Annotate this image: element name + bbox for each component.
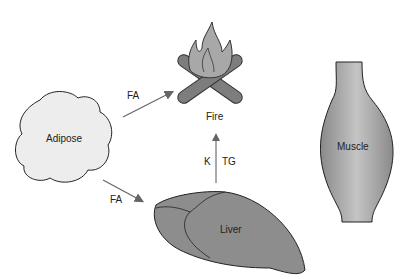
edge-label-tg: TG — [222, 156, 236, 167]
edge-label-fa-liver: FA — [110, 194, 122, 205]
arrow-adipose-to-liver — [103, 180, 142, 201]
liver-label: Liver — [220, 224, 242, 235]
muscle-label: Muscle — [337, 141, 369, 152]
fire-icon — [175, 22, 244, 106]
fire-label: Fire — [206, 111, 223, 122]
edge-label-k: K — [204, 156, 211, 167]
adipose-label: Adipose — [46, 133, 82, 144]
edge-label-fa-fire: FA — [127, 90, 139, 101]
